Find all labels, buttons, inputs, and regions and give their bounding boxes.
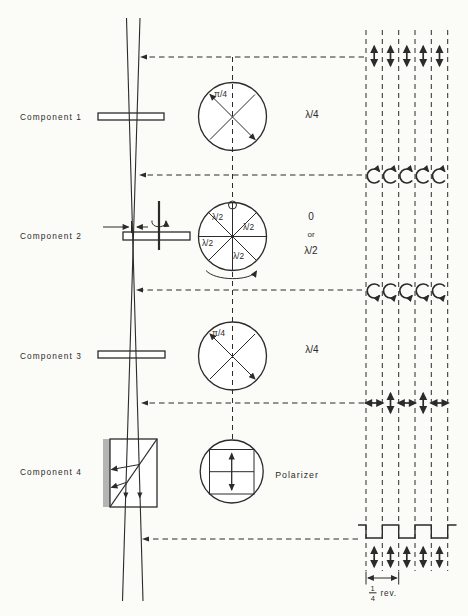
effect-label-4: Polarizer — [275, 470, 319, 480]
beam-ray — [127, 18, 144, 601]
dial-3-angle-label: π/4 — [212, 328, 225, 338]
effect-label-3: λ/4 — [305, 344, 319, 355]
scale-unit-label: rev. — [381, 589, 397, 598]
scale-fraction-denominator: 4 — [371, 594, 375, 603]
absorber-strip — [103, 439, 110, 507]
wheel-rotation-arrow-icon — [206, 271, 257, 279]
effect-label-1: λ/4 — [305, 109, 319, 120]
dial-4-polarizer — [200, 440, 263, 503]
beam-rays — [123, 18, 144, 601]
component-3-label: Component 3 — [20, 351, 82, 361]
circular-polarization-ccw-icon — [433, 284, 445, 298]
sector-label: λ/2 — [212, 212, 223, 222]
circular-polarization-cw-icon — [433, 169, 445, 183]
polarization-row-linear-top — [374, 47, 439, 66]
polarizing-prism — [103, 439, 157, 507]
effect-label-2-line2: or — [307, 230, 314, 239]
left-arrowhead-icon — [141, 400, 148, 405]
component-4-label: Component 4 — [20, 467, 82, 477]
effect-label-2: 0 or λ/2 — [304, 211, 318, 256]
polarization-row-linear-bottom — [374, 548, 439, 567]
polarization-row-alternating — [366, 394, 448, 413]
waveplate-1 — [98, 113, 164, 120]
polarization-row-circular-ccw — [367, 284, 445, 298]
left-arrowhead-icon — [139, 172, 146, 177]
circular-polarization-cw-icon — [384, 169, 396, 183]
component-2-label: Component 2 — [20, 231, 82, 241]
dial-2-rotating-half-wave: λ/2 λ/2 λ/2 λ/2 — [199, 201, 267, 279]
rotation-phase-grid — [366, 30, 448, 571]
left-arrowhead-icon — [142, 536, 149, 541]
circular-polarization-ccw-icon — [416, 284, 428, 298]
circular-polarization-ccw-icon — [384, 284, 396, 298]
circular-polarization-cw-icon — [367, 169, 379, 183]
sector-label: λ/2 — [243, 222, 254, 232]
sector-label: λ/2 — [233, 251, 244, 261]
beam-ray — [123, 18, 141, 601]
component-1-label: Component 1 — [20, 112, 82, 122]
scale-fraction-numerator: 1 — [371, 584, 375, 593]
waveplate-3 — [98, 351, 165, 358]
quarter-rev-scale: 1 4 rev. — [366, 572, 399, 604]
circular-polarization-cw-icon — [400, 169, 412, 183]
left-arrowhead-icon — [140, 54, 147, 59]
dial-1-angle-label: π/4 — [214, 89, 227, 99]
intensity-waveform — [358, 525, 457, 538]
sector-label: λ/2 — [202, 238, 213, 248]
diagram-canvas: 1 4 rev. Component 1 Component 2 Compone… — [0, 0, 468, 616]
circular-polarization-cw-icon — [416, 169, 428, 183]
optical-diagram: 1 4 rev. Component 1 Component 2 Compone… — [0, 0, 468, 616]
left-arrowhead-icon — [136, 287, 143, 292]
effect-label-2-line1: 0 — [308, 211, 314, 222]
polarization-row-circular-cw — [367, 169, 445, 183]
effect-label-2-line3: λ/2 — [304, 245, 318, 256]
circular-polarization-ccw-icon — [367, 284, 379, 298]
circular-polarization-ccw-icon — [400, 284, 412, 298]
